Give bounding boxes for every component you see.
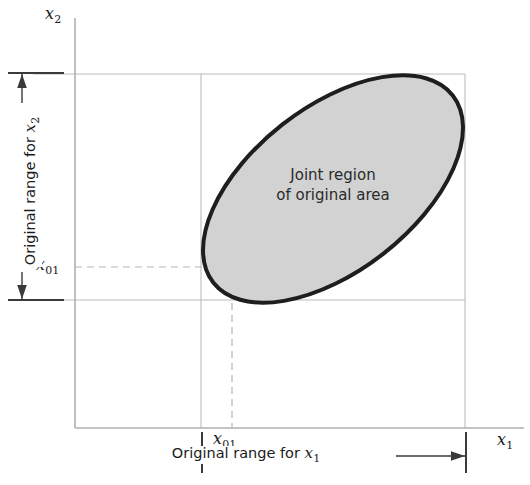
dashed-projection-lines [75,267,232,428]
x-axis-label: x1 [497,432,513,451]
x-range-arrowhead-right [451,451,465,461]
joint-confidence-region-figure [0,0,530,485]
y-axis-label-text: x2 [45,4,61,23]
y-range-label: Original range for x2 [21,115,42,267]
y-axis-label: x2 [45,6,61,25]
joint-region-label-line1: Joint region [276,165,390,185]
joint-region-label-line2: of original area [276,185,390,205]
y-range-label-wrapper: Original range for x2 [20,73,42,309]
joint-region-label: Joint region of original area [276,165,390,206]
x-axis-label-text: x1 [497,430,513,449]
x-range-label: Original range for x1 [169,446,323,464]
